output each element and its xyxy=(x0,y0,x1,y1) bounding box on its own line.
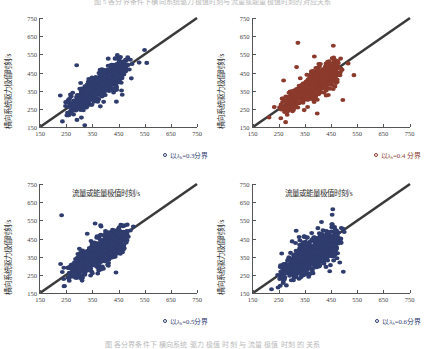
legend-marker-icon-a xyxy=(163,153,167,157)
axes-b: 1502503504505506507501502503504505506507… xyxy=(252,18,410,128)
chart-panel-d: 1502503504505506507501502503504505506507… xyxy=(213,174,425,340)
x-tick-label-b: 750 xyxy=(405,130,415,137)
legend-c: 以λh=0.5分界 xyxy=(163,316,209,326)
x-tick-label-a: 650 xyxy=(166,130,176,137)
y-tick-label-d: 450 xyxy=(240,235,250,242)
y-tick-label-b: 250 xyxy=(240,105,250,112)
y-tick-label-c: 250 xyxy=(27,271,37,278)
x-tick-a xyxy=(171,124,172,127)
x-tick-a xyxy=(66,124,67,127)
y-tick-b xyxy=(253,54,256,55)
x-tick-label-a: 250 xyxy=(61,130,71,137)
x-tick-label-c: 450 xyxy=(114,296,124,303)
y-tick-b xyxy=(253,18,256,19)
x-tick-a xyxy=(197,124,198,127)
y-tick-b xyxy=(253,127,256,128)
x-tick-b xyxy=(410,124,411,127)
x-tick-a xyxy=(145,124,146,127)
y-tick-c xyxy=(40,293,43,294)
x-tick-d xyxy=(410,290,411,293)
x-tick-c xyxy=(171,290,172,293)
y-tick-d xyxy=(253,202,256,203)
x-tick-d xyxy=(305,290,306,293)
scatter-canvas-b xyxy=(253,18,410,127)
y-tick-label-c: 350 xyxy=(27,253,37,260)
x-tick-b xyxy=(279,124,280,127)
y-tick-a xyxy=(40,127,43,128)
y-tick-label-a: 450 xyxy=(27,69,37,76)
x-tick-d xyxy=(331,290,332,293)
y-tick-c xyxy=(40,184,43,185)
legend-marker-icon-d xyxy=(375,319,379,323)
x-tick-label-c: 150 xyxy=(35,296,45,303)
scatter-canvas-c xyxy=(40,184,197,293)
x-tick-label-d: 250 xyxy=(274,296,284,303)
plot-area-c: 1502503504505506507501502503504505506507… xyxy=(0,174,213,340)
y-tick-label-d: 650 xyxy=(240,199,250,206)
y-tick-label-b: 150 xyxy=(240,124,250,131)
x-tick-label-a: 550 xyxy=(140,130,150,137)
figure-page: 图 5 各分界条件下横向系统驱力极值时刻与流量或能量极值时刻的对应关系 1502… xyxy=(0,0,425,349)
y-tick-label-c: 150 xyxy=(27,290,37,297)
x-tick-d xyxy=(279,290,280,293)
y-tick-label-c: 750 xyxy=(27,181,37,188)
caption-top: 图 5 各分界条件下横向系统驱力极值时刻与流量或能量极值时刻的对应关系 xyxy=(0,0,425,7)
x-tick-a xyxy=(119,124,120,127)
scatter-points-c xyxy=(59,214,134,287)
y-tick-label-a: 350 xyxy=(27,87,37,94)
y-tick-label-d: 350 xyxy=(240,253,250,260)
x-tick-label-b: 250 xyxy=(274,130,284,137)
y-tick-a xyxy=(40,91,43,92)
x-tick-label-c: 550 xyxy=(140,296,150,303)
y-tick-label-a: 150 xyxy=(27,124,37,131)
plot-area-a: 1502503504505506507501502503504505506507… xyxy=(0,8,213,174)
y-tick-c xyxy=(40,220,43,221)
x-tick-label-c: 350 xyxy=(87,296,97,303)
y-tick-label-d: 150 xyxy=(240,290,250,297)
scatter-canvas-a xyxy=(40,18,197,127)
plot-area-d: 1502503504505506507501502503504505506507… xyxy=(213,174,425,340)
y-tick-label-a: 250 xyxy=(27,105,37,112)
y-tick-label-c: 650 xyxy=(27,199,37,206)
y-tick-label-c: 450 xyxy=(27,235,37,242)
y-tick-b xyxy=(253,109,256,110)
legend-marker-icon-c xyxy=(163,319,167,323)
legend-b: 以λh=0.4 分界 xyxy=(374,150,421,160)
y-tick-d xyxy=(253,257,256,258)
panel-grid: 1502503504505506507501502503504505506507… xyxy=(0,8,425,340)
y-tick-c xyxy=(40,275,43,276)
y-tick-c xyxy=(40,257,43,258)
y-tick-b xyxy=(253,36,256,37)
axes-d: 1502503504505506507501502503504505506507… xyxy=(252,184,410,294)
y-axis-label-d: 横向系统驱力极值时刻/s xyxy=(215,219,226,294)
x-tick-label-d: 350 xyxy=(300,296,310,303)
y-tick-label-a: 650 xyxy=(27,33,37,40)
x-tick-c xyxy=(66,290,67,293)
y-tick-label-d: 250 xyxy=(240,271,250,278)
y-tick-c xyxy=(40,239,43,240)
y-tick-label-b: 350 xyxy=(240,87,250,94)
y-tick-a xyxy=(40,18,43,19)
chart-panel-c: 1502503504505506507501502503504505506507… xyxy=(0,174,213,340)
x-tick-c xyxy=(119,290,120,293)
x-tick-c xyxy=(145,290,146,293)
x-tick-label-b: 550 xyxy=(352,130,362,137)
x-tick-label-a: 350 xyxy=(87,130,97,137)
scatter-points-d xyxy=(270,208,345,290)
x-tick-label-c: 750 xyxy=(192,296,202,303)
x-tick-label-c: 250 xyxy=(61,296,71,303)
x-tick-c xyxy=(92,290,93,293)
y-tick-label-a: 750 xyxy=(27,15,37,22)
x-tick-label-b: 350 xyxy=(300,130,310,137)
y-axis-label-b: 横向系统驱力极值时刻/s xyxy=(215,53,226,128)
x-tick-label-a: 750 xyxy=(192,130,202,137)
legend-label-b: 以λh=0.4 分界 xyxy=(381,150,421,160)
x-tick-b xyxy=(305,124,306,127)
scatter-canvas-d xyxy=(253,184,410,293)
x-tick-b xyxy=(357,124,358,127)
x-tick-label-d: 750 xyxy=(405,296,415,303)
scatter-points-b xyxy=(267,42,355,123)
axes-c: 1502503504505506507501502503504505506507… xyxy=(39,184,197,294)
legend-d: 以λh=0.6分界 xyxy=(375,316,421,326)
y-tick-c xyxy=(40,202,43,203)
